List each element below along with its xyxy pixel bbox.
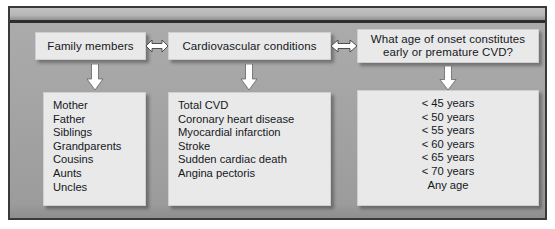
double-headed-arrow-icon xyxy=(331,37,357,55)
list-box-age-of-onset: < 45 years< 50 years< 55 years< 60 years… xyxy=(357,90,539,206)
list-cardiovascular-conditions: Total CVDCoronary heart diseaseMyocardia… xyxy=(169,99,330,181)
double-headed-arrow-icon xyxy=(146,37,168,55)
header-label-age-of-onset-line1: What age of onset constitutes xyxy=(371,33,525,45)
list-item: < 65 years xyxy=(358,151,538,165)
list-item: Siblings xyxy=(53,126,145,140)
list-age-of-onset: < 45 years< 50 years< 55 years< 60 years… xyxy=(358,97,538,192)
list-item: Uncles xyxy=(53,181,145,195)
header-box-cardiovascular-conditions: Cardiovascular conditions xyxy=(168,32,331,60)
figure-frame: Family members Cardiovascular conditions… xyxy=(8,6,547,220)
header-label-family-members: Family members xyxy=(47,40,133,53)
header-label-age-of-onset: What age of onset constitutes early or p… xyxy=(371,33,525,59)
list-item: Any age xyxy=(358,179,538,193)
list-item: < 45 years xyxy=(358,97,538,111)
list-item: < 70 years xyxy=(358,165,538,179)
list-item: Aunts xyxy=(53,167,145,181)
header-label-cardiovascular-conditions: Cardiovascular conditions xyxy=(182,40,316,53)
list-box-cardiovascular-conditions: Total CVDCoronary heart diseaseMyocardia… xyxy=(168,92,331,206)
frame-top-band xyxy=(10,8,545,20)
list-item: < 55 years xyxy=(358,124,538,138)
list-item: Myocardial infarction xyxy=(178,126,330,140)
list-item: Cousins xyxy=(53,153,145,167)
list-item: Father xyxy=(53,113,145,127)
header-box-family-members: Family members xyxy=(35,32,146,60)
list-item: Angina pectoris xyxy=(178,167,330,181)
figure-container: Family members Cardiovascular conditions… xyxy=(0,0,555,229)
list-item: < 50 years xyxy=(358,111,538,125)
list-item: < 60 years xyxy=(358,138,538,152)
list-item: Grandparents xyxy=(53,140,145,154)
down-arrow-icon xyxy=(85,64,105,90)
list-item: Sudden cardiac death xyxy=(178,153,330,167)
list-item: Stroke xyxy=(178,140,330,154)
list-item: Total CVD xyxy=(178,99,330,113)
list-box-family-members: MotherFatherSiblingsGrandparentsCousinsA… xyxy=(43,92,146,206)
down-arrow-icon xyxy=(239,64,259,90)
header-label-age-of-onset-line2: early or premature CVD? xyxy=(383,46,513,58)
list-family-members: MotherFatherSiblingsGrandparentsCousinsA… xyxy=(44,99,145,194)
list-item: Coronary heart disease xyxy=(178,113,330,127)
down-arrow-icon xyxy=(438,66,458,90)
header-box-age-of-onset: What age of onset constitutes early or p… xyxy=(357,29,539,63)
list-item: Mother xyxy=(53,99,145,113)
